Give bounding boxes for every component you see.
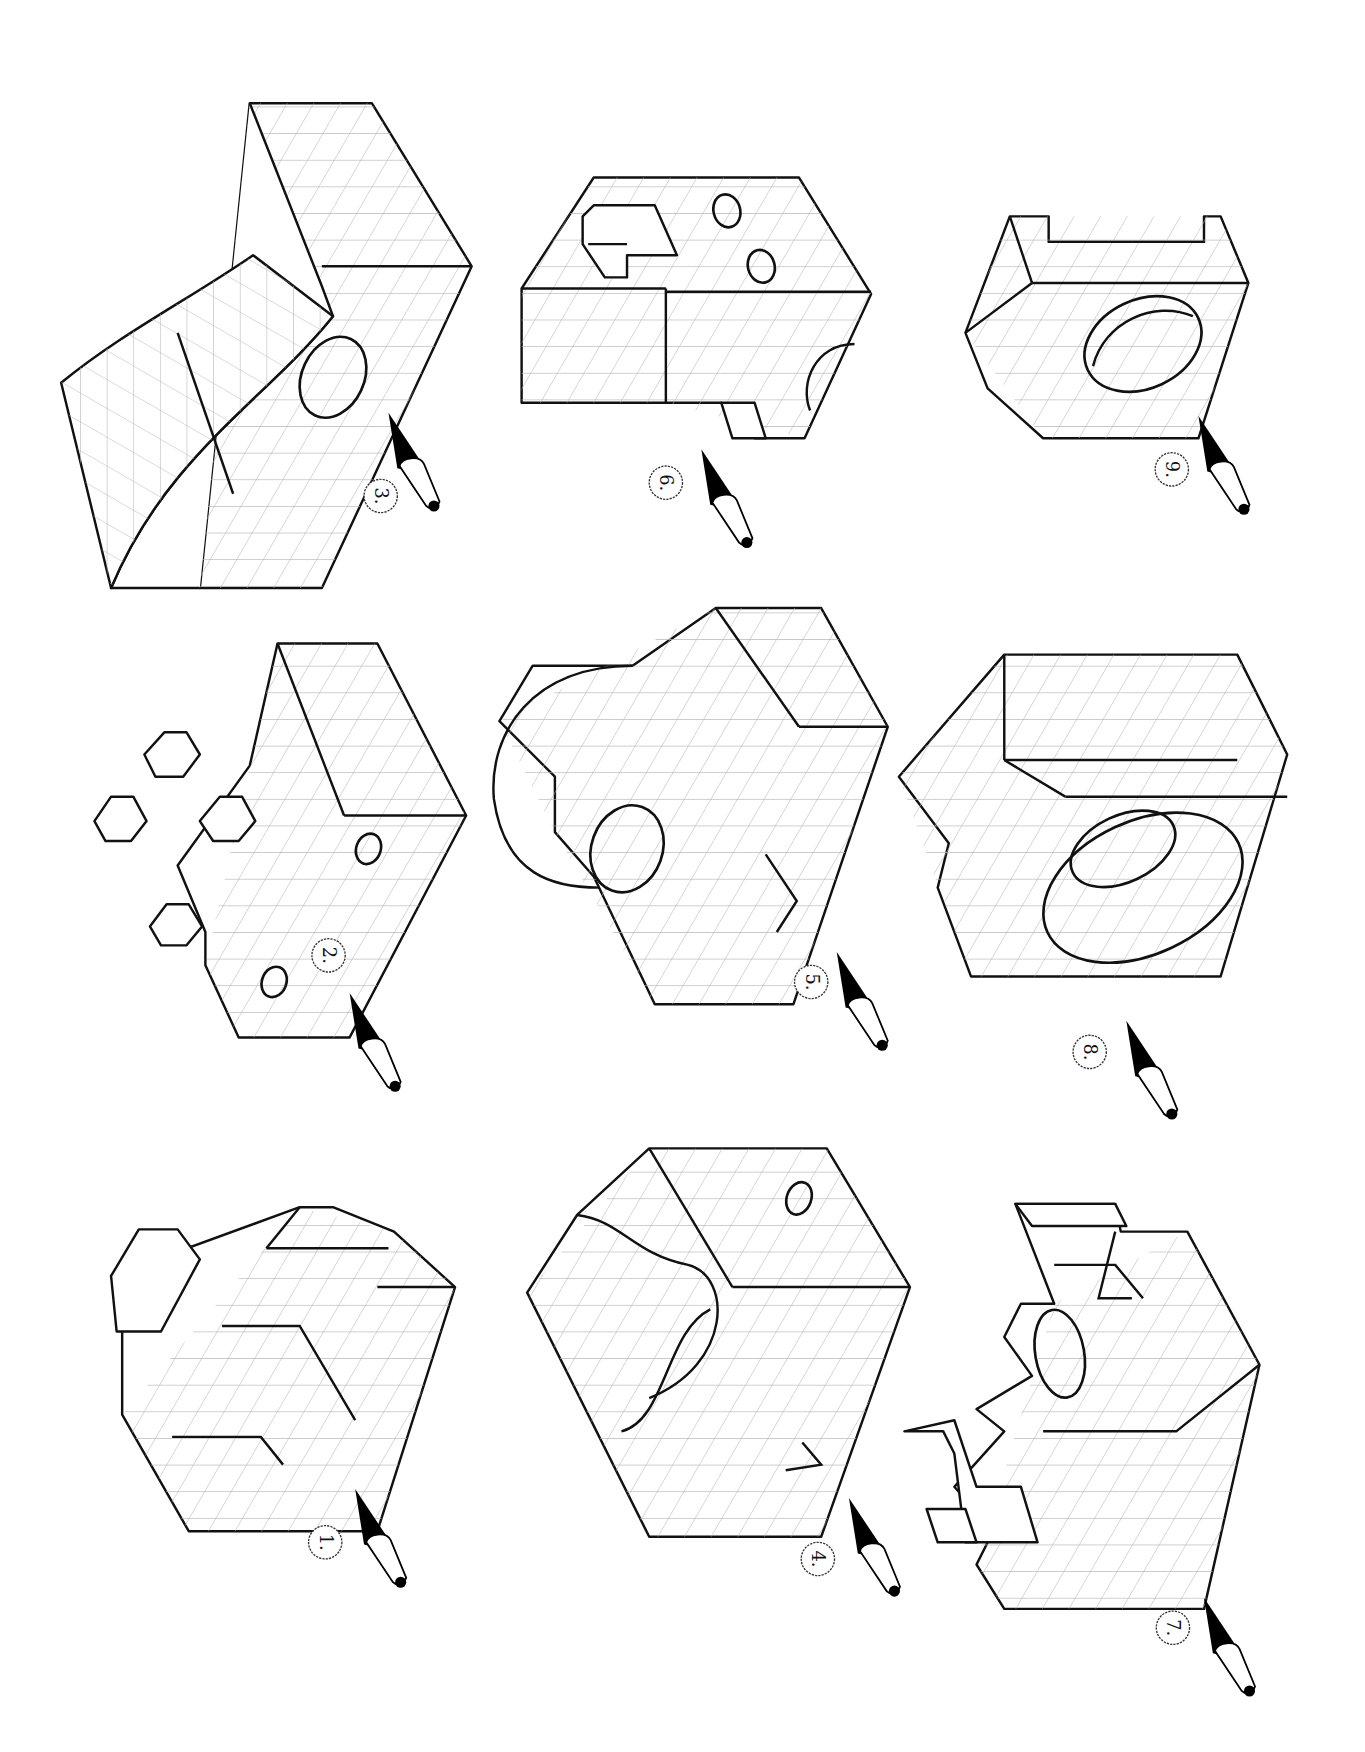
view-arrow-4 <box>849 1498 900 1597</box>
figure-label-1: 1. <box>309 1526 342 1559</box>
figure-6 <box>522 178 872 439</box>
svg-text:9.: 9. <box>1162 461 1182 478</box>
figure-label-9: 9. <box>1155 453 1188 486</box>
figure-label-2: 2. <box>312 939 345 972</box>
view-arrow-2 <box>350 993 401 1092</box>
view-arrow-6 <box>701 449 752 548</box>
svg-text:4.: 4. <box>808 1550 828 1567</box>
figure-9 <box>965 216 1248 438</box>
figure-1 <box>111 1207 455 1531</box>
figure-2 <box>94 644 466 1038</box>
view-arrow-5 <box>837 952 888 1051</box>
figure-label-4: 4. <box>801 1542 834 1575</box>
figure-7 <box>904 1204 1259 1609</box>
svg-text:7.: 7. <box>1163 1619 1183 1636</box>
drawing-sheet: 3. 6. 9. <box>0 0 1365 1752</box>
svg-text:5.: 5. <box>802 973 822 990</box>
figure-8 <box>899 655 1287 993</box>
figure-5 <box>493 608 887 1004</box>
figure-label-5: 5. <box>795 965 828 998</box>
figure-4 <box>527 1148 910 1536</box>
view-arrow-7 <box>1204 1598 1255 1697</box>
svg-text:8.: 8. <box>1080 1043 1100 1060</box>
figure-label-6: 6. <box>649 466 682 499</box>
figure-3 <box>61 103 472 588</box>
figure-label-8: 8. <box>1073 1035 1106 1068</box>
view-arrow-8 <box>1126 1021 1177 1120</box>
view-arrow-9 <box>1198 416 1249 515</box>
svg-text:3.: 3. <box>371 488 391 505</box>
figure-label-7: 7. <box>1156 1611 1189 1644</box>
svg-text:6.: 6. <box>656 474 676 491</box>
svg-text:2.: 2. <box>319 947 339 964</box>
svg-text:1.: 1. <box>316 1534 336 1551</box>
figure-label-3: 3. <box>364 479 397 512</box>
